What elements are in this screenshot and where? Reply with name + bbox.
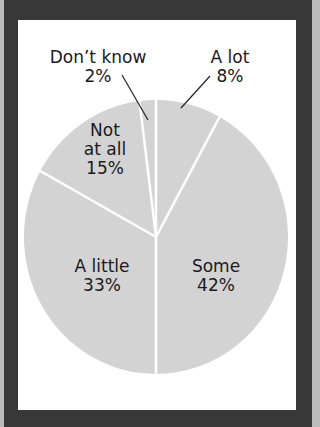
- label-dont-know: Don’t know 2%: [48, 48, 148, 86]
- label-not-at-all-line2: at all: [75, 140, 135, 159]
- label-dont-know-name: Don’t know: [48, 48, 148, 67]
- label-some: Some 42%: [176, 257, 256, 295]
- label-some-name: Some: [176, 257, 256, 276]
- label-a-little: A little 33%: [62, 257, 142, 295]
- label-not-at-all-pct: 15%: [75, 159, 135, 178]
- label-not-at-all-line1: Not: [75, 121, 135, 140]
- label-a-little-pct: 33%: [62, 276, 142, 295]
- label-not-at-all: Not at all 15%: [75, 121, 135, 178]
- label-a-lot-pct: 8%: [200, 67, 260, 86]
- label-a-little-name: A little: [62, 257, 142, 276]
- label-a-lot-name: A lot: [200, 48, 260, 67]
- label-dont-know-pct: 2%: [48, 67, 148, 86]
- label-a-lot: A lot 8%: [200, 48, 260, 86]
- label-some-pct: 42%: [176, 276, 256, 295]
